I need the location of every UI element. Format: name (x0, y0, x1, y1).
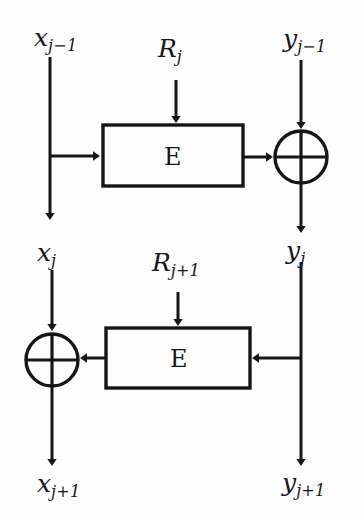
label-round-key-bottom-var: R (152, 248, 171, 277)
label-x-prev-var: x (34, 23, 48, 52)
xor-gate-top (275, 131, 327, 183)
encrypt-box-bottom-label: E (170, 345, 188, 373)
xor-gate-bottom (26, 334, 78, 386)
encrypt-box-top-label: E (164, 143, 182, 171)
label-round-key-top: Rj (158, 36, 182, 65)
label-y-prev-sub: j−1 (297, 37, 326, 56)
label-x-next: xj+1 (37, 471, 80, 500)
label-x-next-sub: j+1 (51, 482, 80, 501)
label-x-next-var: x (37, 469, 51, 498)
label-y-cur-var: y (286, 236, 300, 265)
label-y-next: yj+1 (282, 470, 325, 499)
label-y-next-sub: j+1 (296, 481, 325, 500)
label-y-prev: yj−1 (283, 26, 326, 55)
label-round-key-bottom: Rj+1 (152, 250, 200, 279)
label-y-cur: yj (286, 238, 305, 267)
label-y-cur-sub: j (300, 249, 305, 268)
label-x-prev: xj−1 (34, 25, 77, 54)
label-round-key-top-sub: j (177, 47, 182, 66)
label-x-cur-var: x (37, 238, 51, 267)
label-x-prev-sub: j−1 (48, 36, 77, 55)
label-x-cur-sub: j (51, 251, 56, 270)
label-round-key-top-var: R (158, 34, 177, 63)
label-y-prev-var: y (283, 24, 297, 53)
label-x-cur: xj (37, 240, 56, 269)
label-y-next-var: y (282, 468, 296, 497)
label-round-key-bottom-sub: j+1 (171, 261, 200, 280)
diagram-canvas: xj−1 Rj yj−1 E xj yj Rj+1 E xj+1 yj+1 (0, 0, 364, 520)
